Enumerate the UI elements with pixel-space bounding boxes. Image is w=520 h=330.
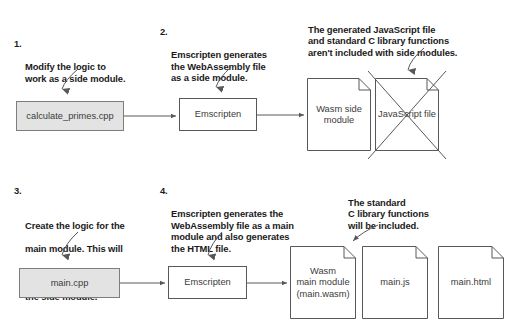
main-js-outline: [363, 247, 428, 319]
node-wasm-main-module: Wasm main module (main.wasm): [290, 246, 356, 319]
annotation-step-3-line-1: Create the logic for the: [25, 220, 125, 231]
node-main-cpp-label: main.cpp: [51, 278, 89, 289]
wasm-main-module-outline: [291, 247, 356, 319]
node-javascript-file: JavaScript file: [375, 78, 439, 151]
annotation-note-js-excluded-text: The generated JavaScript file and standa…: [308, 24, 518, 59]
annotation-step-2-text: Emscripten generates the WebAssembly fil…: [171, 49, 301, 84]
annotation-step-1-text: Modify the logic to work as a side modul…: [25, 61, 175, 84]
annotation-step-3-number: 3.: [14, 185, 22, 197]
node-calculate-primes-cpp: calculate_primes.cpp: [16, 101, 124, 131]
node-wasm-side-module: Wasm side module: [307, 78, 371, 151]
annotation-step-1-number: 1.: [14, 38, 22, 50]
node-emscripten-bottom: Emscripten: [168, 266, 247, 299]
annotation-note-c-included: The standard C library functions will be…: [348, 185, 488, 243]
node-main-cpp: main.cpp: [19, 268, 120, 298]
node-main-html: main.html: [438, 246, 504, 319]
annotation-note-js-excluded: The generated JavaScript file and standa…: [308, 12, 518, 70]
node-calculate-primes-cpp-label: calculate_primes.cpp: [26, 111, 113, 122]
annotation-note-c-included-text: The standard C library functions will be…: [348, 197, 488, 232]
annotation-step-2: 2. Emscripten generates the WebAssembly …: [160, 26, 301, 96]
annotation-step-4-number: 4.: [160, 185, 168, 197]
annotation-step-1: 1. Modify the logic to work as a side mo…: [14, 38, 175, 96]
node-main-js: main.js: [362, 246, 428, 319]
node-emscripten-top: Emscripten: [179, 98, 257, 131]
node-emscripten-top-label: Emscripten: [195, 109, 242, 120]
annotation-step-2-number: 2.: [160, 26, 168, 38]
node-emscripten-bottom-label: Emscripten: [184, 277, 231, 288]
annotation-step-3-line-2: main module. This will: [25, 243, 123, 254]
diagram-canvas: 1. Modify the logic to work as a side mo…: [0, 0, 520, 330]
wasm-side-module-outline: [308, 79, 371, 151]
main-html-outline: [439, 247, 504, 319]
